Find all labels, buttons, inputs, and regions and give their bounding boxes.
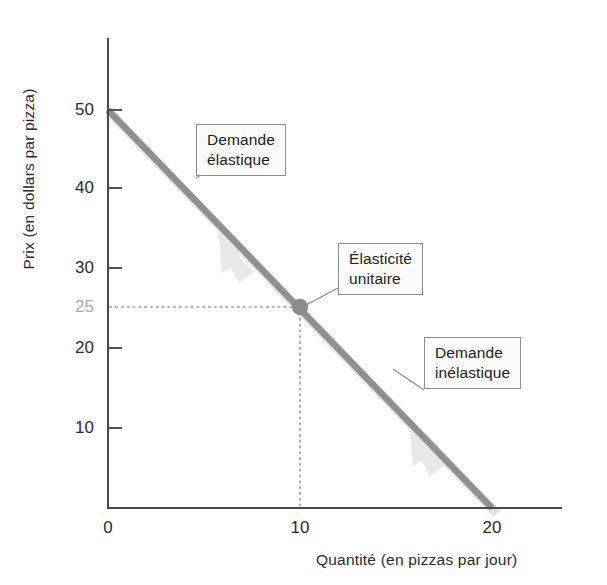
x-axis-title: Quantité (en pizzas par jour) <box>316 551 517 569</box>
y-tick-label-50: 50 <box>52 100 94 120</box>
y-tick-label-20: 20 <box>52 338 94 358</box>
y-tick-label-40: 40 <box>52 178 94 198</box>
annotation-demande-inelastique: Demande inélastique <box>424 337 521 389</box>
y-axis-ticks <box>108 110 122 428</box>
leader-line-unitaire <box>306 288 338 305</box>
x-tick-label-10: 10 <box>280 518 320 538</box>
y-axis-title: Prix (en dollars par pizza) <box>20 74 38 284</box>
elasticity-demand-chart: 50 40 30 25 20 10 0 10 20 Prix (en dolla… <box>0 0 607 585</box>
leader-line-inelastique <box>393 369 424 390</box>
x-tick-label-0: 0 <box>88 518 128 538</box>
annotation-demande-elastique: Demande élastique <box>196 124 286 176</box>
y-tick-label-30: 30 <box>52 258 94 278</box>
annotation-elasticite-unitaire: Élasticité unitaire <box>338 243 423 295</box>
x-tick-label-20: 20 <box>472 518 512 538</box>
y-tick-label-10: 10 <box>52 418 94 438</box>
chart-plot-area <box>0 0 607 585</box>
unitary-elasticity-point <box>292 299 308 315</box>
y-tick-label-25: 25 <box>52 297 94 317</box>
